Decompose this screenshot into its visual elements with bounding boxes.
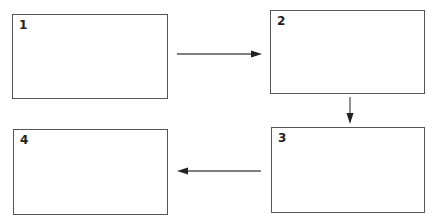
arrow-right-icon — [177, 51, 262, 58]
arrow-down-icon — [347, 97, 354, 124]
arrow-left-icon — [177, 168, 261, 175]
flow-arrows — [0, 0, 436, 221]
